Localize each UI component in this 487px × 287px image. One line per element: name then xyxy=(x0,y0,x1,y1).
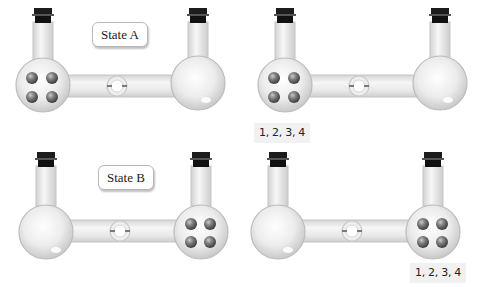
state-a-label: State A xyxy=(92,22,148,47)
flask-apparatus-right-filled xyxy=(0,140,240,280)
flask-apparatus-left-filled xyxy=(0,0,240,140)
panel-state-a-initial: State A xyxy=(0,0,240,140)
state-b-label: State B xyxy=(98,165,154,190)
panel-state-b-result: 1, 2, 3, 4 xyxy=(240,140,480,280)
flask-apparatus-left-filled xyxy=(240,0,480,140)
flask-apparatus-right-filled xyxy=(240,140,480,280)
panel-state-b-initial: State B xyxy=(0,140,240,280)
caption-state-b: 1, 2, 3, 4 xyxy=(410,263,466,283)
panel-state-a-result: 1, 2, 3, 4 xyxy=(240,0,480,140)
